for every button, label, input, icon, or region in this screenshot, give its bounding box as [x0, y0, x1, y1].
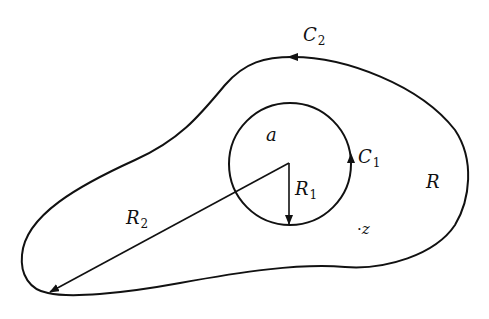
inner-circle-c1 — [229, 103, 351, 225]
radius-r2-line — [50, 163, 289, 292]
label-r1: R1 — [295, 180, 317, 201]
label-c2: C2 — [303, 26, 325, 47]
label-region-r: R — [426, 173, 440, 191]
diagram-svg — [0, 0, 489, 319]
label-c1: C1 — [358, 148, 380, 169]
diagram-canvas: C2 C1 a R1 R2 R ·z — [0, 0, 489, 319]
label-center-a: a — [266, 126, 277, 144]
c2-direction-arrow-icon — [287, 53, 298, 61]
label-r2: R2 — [126, 209, 148, 230]
label-point-z: ·z — [357, 222, 370, 237]
outer-contour-c2 — [22, 57, 468, 295]
c1-direction-arrow-icon — [347, 153, 355, 163]
